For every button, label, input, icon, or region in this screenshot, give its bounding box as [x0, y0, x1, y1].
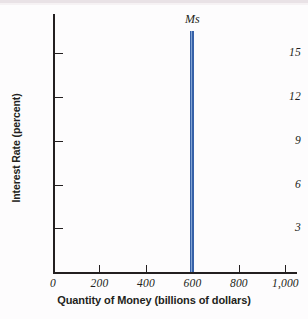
money-supply-curve — [190, 31, 194, 272]
x-axis-line — [53, 272, 297, 274]
y-axis-tick-label: 12 — [262, 91, 308, 103]
x-axis-title: Quantity of Money (billions of dollars) — [0, 294, 308, 306]
y-axis-tick-label: 6 — [262, 179, 308, 191]
x-axis-tick-mark — [285, 265, 286, 272]
x-axis-tick-label: 0 — [50, 278, 56, 290]
x-axis-tick-mark — [99, 265, 100, 272]
y-axis-title: Interest Rate (percent) — [10, 68, 22, 228]
x-axis-tick-label: 1,000 — [272, 278, 299, 290]
y-axis-tick-label: 3 — [262, 222, 308, 234]
y-axis-tick-label: 9 — [262, 135, 308, 147]
x-axis-tick-label: 400 — [137, 278, 155, 290]
x-axis-tick-label: 200 — [91, 278, 109, 290]
plot-area: 3691215 02004006008001,000 Ms Interest R… — [0, 0, 308, 319]
money-supply-curve-highlight — [191, 31, 192, 272]
money-supply-curve-label: Ms — [185, 13, 200, 25]
y-axis-tick-mark — [55, 97, 63, 98]
y-axis-tick-mark — [55, 185, 63, 186]
y-axis-tick-mark — [55, 141, 63, 142]
chart-screenshot: 3691215 02004006008001,000 Ms Interest R… — [0, 0, 308, 319]
y-axis-tick-mark — [55, 53, 63, 54]
x-axis-tick-label: 600 — [183, 278, 201, 290]
y-axis-tick-label: 15 — [262, 47, 308, 59]
x-axis-tick-label: 800 — [230, 278, 248, 290]
x-axis-tick-mark — [239, 265, 240, 272]
x-axis-tick-mark — [146, 265, 147, 272]
y-axis-tick-mark — [55, 228, 63, 229]
